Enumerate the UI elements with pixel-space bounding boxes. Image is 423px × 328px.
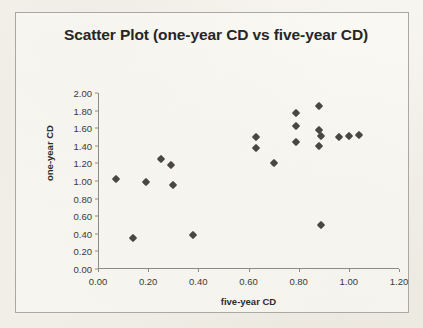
- y-tick-label: 1.00: [74, 176, 93, 187]
- y-tick-label: 0.60: [74, 211, 93, 222]
- y-tick-mark: [95, 198, 98, 199]
- scatter-point: [166, 161, 174, 169]
- x-tick-label: 0.60: [239, 276, 258, 287]
- x-tick-mark: [299, 269, 300, 272]
- x-tick-mark: [249, 269, 250, 272]
- y-tick-mark: [95, 128, 98, 129]
- scatter-point: [141, 178, 149, 186]
- scatter-point: [169, 181, 177, 189]
- scatter-point: [129, 234, 137, 242]
- x-tick-label: 1.20: [390, 276, 409, 287]
- y-axis-title: one-year CD: [44, 125, 55, 181]
- scatter-point: [252, 133, 260, 141]
- plot-area: 0.000.200.400.600.801.001.201.401.601.80…: [98, 93, 399, 269]
- y-tick-mark: [95, 145, 98, 146]
- scatter-point: [189, 230, 197, 238]
- x-tick-label: 1.00: [340, 276, 359, 287]
- y-tick-label: 0.00: [74, 264, 93, 275]
- x-tick-mark: [148, 269, 149, 272]
- x-tick-label: 0.20: [139, 276, 158, 287]
- scatter-point: [317, 221, 325, 229]
- scatter-point: [314, 142, 322, 150]
- x-axis-title: five-year CD: [98, 296, 399, 307]
- y-tick-mark: [95, 181, 98, 182]
- scatter-point: [292, 138, 300, 146]
- scatter-point: [355, 131, 363, 139]
- x-tick-label: 0.40: [189, 276, 208, 287]
- scatter-point: [335, 133, 343, 141]
- y-tick-mark: [95, 233, 98, 234]
- y-tick-label: 2.00: [74, 88, 93, 99]
- chart-frame: Scatter Plot (one-year CD vs five-year C…: [15, 12, 409, 313]
- y-tick-label: 1.80: [74, 105, 93, 116]
- scatter-point: [269, 158, 277, 166]
- y-tick-mark: [95, 163, 98, 164]
- y-tick-mark: [95, 110, 98, 111]
- x-tick-label: 0.80: [289, 276, 308, 287]
- x-tick-mark: [349, 269, 350, 272]
- y-tick-mark: [95, 251, 98, 252]
- y-tick-label: 1.40: [74, 140, 93, 151]
- scatter-point: [111, 175, 119, 183]
- x-tick-mark: [399, 269, 400, 272]
- y-tick-mark: [95, 93, 98, 94]
- scatter-point: [314, 102, 322, 110]
- scatter-point: [292, 109, 300, 117]
- y-tick-label: 0.80: [74, 193, 93, 204]
- x-tick-mark: [98, 269, 99, 272]
- screenshot-root: Scatter Plot (one-year CD vs five-year C…: [0, 0, 423, 328]
- x-tick-mark: [198, 269, 199, 272]
- y-tick-label: 1.20: [74, 158, 93, 169]
- chart-title: Scatter Plot (one-year CD vs five-year C…: [56, 25, 376, 45]
- scatter-point: [252, 144, 260, 152]
- y-tick-label: 1.60: [74, 123, 93, 134]
- y-axis-line: [98, 93, 99, 269]
- scatter-point: [317, 132, 325, 140]
- y-tick-label: 0.20: [74, 246, 93, 257]
- x-tick-label: 0.00: [89, 276, 108, 287]
- scatter-point: [292, 122, 300, 130]
- scatter-point: [345, 132, 353, 140]
- scatter-point: [156, 155, 164, 163]
- y-tick-label: 0.40: [74, 228, 93, 239]
- y-tick-mark: [95, 216, 98, 217]
